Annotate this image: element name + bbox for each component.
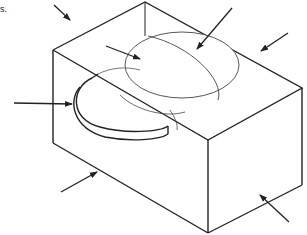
arrow-semicircle-recess — [14, 103, 72, 104]
arrow-top-left-edge — [54, 5, 70, 20]
arrow-bottom-left-edge — [61, 172, 97, 192]
arrow-top-face-right — [261, 33, 288, 51]
dome — [120, 32, 239, 130]
block-diagram — [0, 0, 307, 235]
